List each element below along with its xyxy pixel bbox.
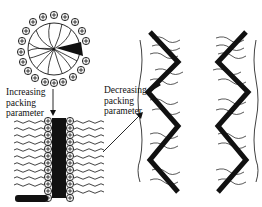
decreasing-arrow bbox=[103, 112, 143, 152]
bilayer bbox=[14, 117, 104, 202]
label-line: packing bbox=[6, 98, 46, 109]
label-line: parameter bbox=[6, 108, 46, 119]
decreasing-packing-label: Decreasing packing parameter bbox=[104, 85, 147, 117]
bilayer-tails-right bbox=[74, 121, 104, 194]
label-line: parameter bbox=[104, 106, 147, 117]
bilayer-headgroups-left bbox=[44, 117, 51, 201]
spherical-micelle bbox=[17, 11, 89, 86]
inverted-structure bbox=[138, 32, 258, 192]
bilayer-tails-left bbox=[14, 121, 44, 187]
label-line: packing bbox=[104, 96, 147, 107]
increasing-packing-label: Increasing packing parameter bbox=[6, 87, 46, 119]
label-line: Increasing bbox=[6, 87, 46, 98]
increasing-arrow bbox=[50, 89, 56, 116]
bilayer-headgroups-right bbox=[66, 117, 73, 201]
horizontal-surfactant bbox=[15, 195, 48, 202]
label-line: Decreasing bbox=[104, 85, 147, 96]
